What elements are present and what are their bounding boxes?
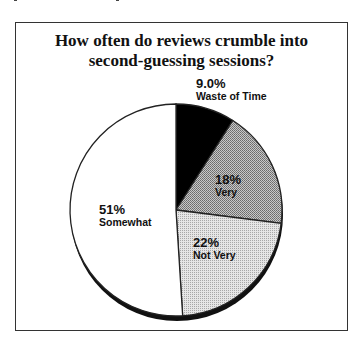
slice-name: Somewhat	[99, 216, 152, 228]
label-very: 18% Very	[215, 173, 241, 198]
pie-chart	[0, 0, 363, 344]
slice-percent: 9.0%	[196, 77, 267, 90]
slice-name: Not Very	[193, 249, 236, 261]
slice-percent: 51%	[99, 203, 152, 216]
slice-name: Very	[215, 186, 241, 198]
label-somewhat: 51% Somewhat	[99, 203, 152, 228]
slice-not-very	[176, 210, 281, 316]
slice-percent: 18%	[215, 173, 241, 186]
label-waste-of-time: 9.0% Waste of Time	[196, 77, 267, 102]
label-not-very: 22% Not Very	[193, 236, 236, 261]
slice-name: Waste of Time	[196, 90, 267, 102]
slice-percent: 22%	[193, 236, 236, 249]
